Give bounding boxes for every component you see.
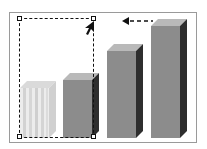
left-arrow-icon [122, 17, 154, 25]
bar-3[interactable] [107, 44, 143, 138]
selection-handle-top-left[interactable] [17, 16, 22, 21]
selection-handle-bottom-left[interactable] [17, 134, 22, 139]
selection-handle-bottom-right[interactable] [91, 134, 96, 139]
bar-4[interactable] [151, 19, 187, 138]
cursor-icon [84, 20, 96, 36]
selection-rectangle[interactable] [19, 18, 94, 138]
